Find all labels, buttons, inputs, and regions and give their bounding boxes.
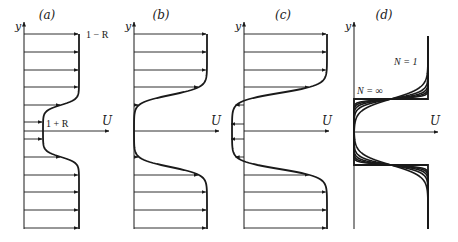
u-axis-label-b: U: [211, 114, 222, 128]
annotation-one-minus-r: 1 − R: [86, 29, 109, 40]
panel-d: [354, 22, 438, 229]
y-axis-label-a: y: [14, 20, 22, 33]
velocity-profile-curve: [43, 34, 79, 229]
velocity-profile-curve: [232, 34, 327, 229]
y-axis-label-c: y: [234, 20, 242, 33]
panel-b-label: (b): [152, 8, 169, 22]
panel-b: [134, 22, 219, 229]
annotation-n-equals-1: N = 1: [393, 56, 417, 67]
panel-c-label: (c): [275, 8, 291, 22]
panel-a-label: (a): [39, 8, 56, 22]
u-axis-label-c: U: [322, 114, 333, 128]
u-axis-label-a: U: [102, 114, 113, 128]
u-axis-label-d: U: [430, 114, 441, 128]
panel-c: [231, 22, 329, 229]
annotation-n-equals-infinity: N = ∞: [356, 85, 383, 96]
velocity-profile-figure: (a) (b) (c) (d) y y y y U U U U 1 − R 1 …: [0, 0, 458, 242]
y-axis-label-d: y: [344, 20, 352, 33]
annotation-one-plus-r: 1 + R: [46, 118, 69, 129]
panel-d-label: (d): [375, 8, 392, 22]
velocity-profile-curve: [134, 34, 207, 229]
y-axis-label-b: y: [124, 20, 132, 33]
